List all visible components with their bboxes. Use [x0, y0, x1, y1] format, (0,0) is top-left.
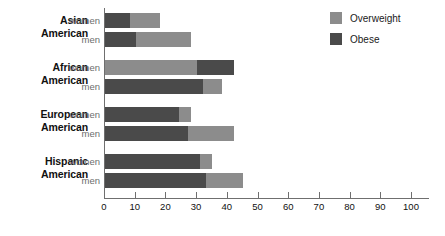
x-axis-tick: [227, 192, 228, 198]
bar: [105, 13, 160, 28]
bar-segment-overweight: [105, 60, 197, 75]
bar-segment-obese: [105, 32, 136, 47]
bar-segment-overweight: [188, 126, 234, 141]
x-axis-tick: [104, 192, 105, 198]
x-axis-tick-label: 80: [337, 201, 363, 212]
bar: [105, 79, 222, 94]
legend-label: Obese: [350, 34, 379, 45]
bar: [105, 154, 212, 169]
series-label-men: men: [55, 35, 100, 45]
x-axis-line: [104, 198, 429, 199]
x-axis-tick: [165, 192, 166, 198]
legend-swatch-overweight: [330, 12, 342, 24]
bar-segment-obese: [105, 126, 188, 141]
legend-label: Overweight: [350, 13, 401, 24]
x-axis-tick: [258, 192, 259, 198]
chart-legend: OverweightObese: [330, 12, 401, 54]
x-axis-tick: [411, 192, 412, 198]
bar-segment-overweight: [203, 79, 221, 94]
x-axis-tick: [319, 192, 320, 198]
bar-segment-obese: [105, 79, 203, 94]
bar-segment-obese: [105, 154, 200, 169]
stacked-bar-chart: 0102030405060708090100 AsianAmericanAfri…: [0, 0, 445, 236]
legend-item: Overweight: [330, 12, 401, 24]
x-axis-tick-label: 70: [306, 201, 332, 212]
x-axis-tick: [135, 192, 136, 198]
series-label-women: women: [55, 63, 100, 73]
bar-segment-obese: [105, 107, 179, 122]
bar-segment-overweight: [136, 32, 191, 47]
bar-segment-overweight: [200, 154, 212, 169]
bar-segment-overweight: [130, 13, 161, 28]
x-axis-tick: [288, 192, 289, 198]
x-axis-tick: [196, 192, 197, 198]
x-axis-tick-label: 60: [275, 201, 301, 212]
bar-segment-obese: [197, 60, 234, 75]
series-label-men: men: [55, 82, 100, 92]
bar: [105, 126, 234, 141]
x-axis-tick-label: 40: [214, 201, 240, 212]
x-axis-tick-label: 0: [91, 201, 117, 212]
series-label-women: women: [55, 110, 100, 120]
series-label-women: women: [55, 157, 100, 167]
series-label-men: men: [55, 176, 100, 186]
bar: [105, 173, 243, 188]
bar-segment-overweight: [179, 107, 191, 122]
bar: [105, 60, 234, 75]
legend-swatch-obese: [330, 33, 342, 45]
x-axis-tick-label: 30: [183, 201, 209, 212]
series-label-women: women: [55, 16, 100, 26]
x-axis-tick: [350, 192, 351, 198]
bar: [105, 32, 191, 47]
x-axis-tick: [380, 192, 381, 198]
x-axis-tick-label: 50: [245, 201, 271, 212]
bar-segment-obese: [105, 13, 130, 28]
x-axis-tick-label: 20: [152, 201, 178, 212]
x-axis-tick-label: 10: [122, 201, 148, 212]
legend-item: Obese: [330, 33, 401, 45]
bar: [105, 107, 191, 122]
bar-segment-obese: [105, 173, 206, 188]
series-label-men: men: [55, 129, 100, 139]
x-axis-tick-label: 90: [367, 201, 393, 212]
x-axis-tick-label: 100: [398, 201, 424, 212]
bar-segment-overweight: [206, 173, 243, 188]
